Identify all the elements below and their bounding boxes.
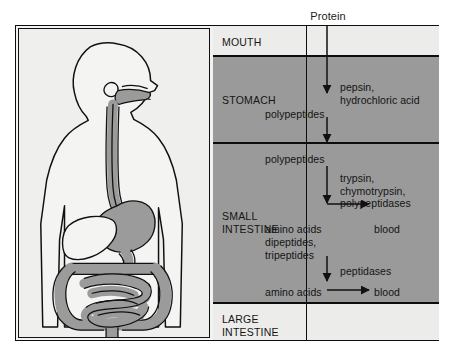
row-divider — [306, 26, 307, 55]
human-digestive-tract-illustration — [19, 29, 209, 337]
anatomy-panel — [18, 28, 210, 338]
destination-blood-1: blood — [374, 223, 400, 236]
digestion-flowchart: MOUTH STOMACH pepsin, hydrochloric acid … — [213, 25, 439, 341]
flow-row-large-intestine: LARGE INTESTINE — [213, 303, 439, 341]
flow-row-small-intestine: SMALL INTESTINE polypeptides trypsin, ch… — [213, 143, 439, 303]
flow-row-stomach: STOMACH pepsin, hydrochloric acid polype… — [213, 56, 439, 143]
enzyme-trypsin-group: trypsin, chymotrypsin, polypeptidases — [340, 172, 411, 210]
destination-blood-2: blood — [374, 286, 400, 299]
row-divider — [306, 57, 307, 142]
product-di-tripeptides: dipeptides, tripeptides — [265, 236, 316, 261]
row-divider — [306, 304, 307, 340]
substrate-polypeptides-small-intestine: polypeptides — [265, 153, 325, 166]
flow-row-mouth: MOUTH — [213, 25, 439, 56]
protein-input-label: Protein — [296, 10, 360, 22]
enzyme-pepsin-hcl: pepsin, hydrochloric acid — [340, 81, 420, 106]
product-polypeptides-stomach: polypeptides — [265, 108, 325, 121]
organ-label-large-intestine: LARGE INTESTINE — [222, 313, 279, 338]
enzyme-peptidases: peptidases — [340, 265, 391, 278]
organ-label-mouth: MOUTH — [222, 36, 262, 49]
product-amino-acids-1: amino acids — [265, 223, 322, 236]
organ-label-stomach: STOMACH — [222, 94, 276, 107]
protein-digestion-figure: Protein — [0, 0, 453, 359]
product-amino-acids-2: amino acids — [265, 286, 322, 299]
